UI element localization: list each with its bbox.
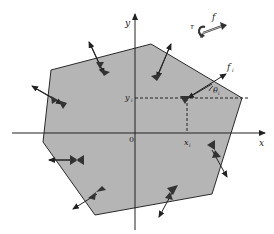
rigid-body-polygon [43, 44, 242, 215]
svg-text:y: y [124, 93, 130, 102]
svg-text:i: i [232, 67, 234, 73]
object-diagram: x y 0 y i x i f i θ i τ f [0, 0, 274, 234]
wrench-force-label: f [211, 12, 217, 22]
y-axis-label: y [124, 18, 131, 28]
x-axis-label: x [259, 138, 264, 148]
torque-label: τ [190, 23, 194, 31]
origin-label: 0 [129, 135, 134, 144]
wrench-torque-force-icon: τ f [190, 12, 227, 38]
